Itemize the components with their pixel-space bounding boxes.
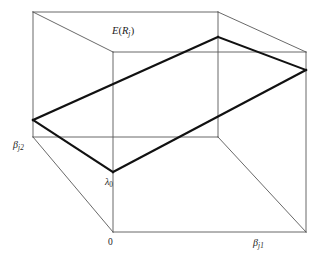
box-edge-depth-top-right — [218, 12, 306, 52]
axis-label-beta-j1: βj1 — [253, 238, 264, 250]
plane-edge-front — [113, 70, 306, 172]
beta-j1-subscript: j1 — [258, 242, 264, 250]
beta-j2-subscript: j2 — [18, 144, 24, 152]
plane-edge-left — [33, 120, 113, 172]
plane-label-close-paren: ) — [131, 25, 135, 36]
plane-edge-back — [33, 37, 218, 120]
plane-label-expected-return: E(Rj) — [112, 26, 134, 38]
intercept-label-lambda-zero: λ0 — [105, 177, 113, 189]
box-edge-depth-top-left — [33, 12, 113, 52]
origin-label: 0 — [108, 238, 113, 248]
expected-return-plane — [33, 37, 306, 172]
figure-container: E(Rj) βj2 λ0 0 βj1 — [0, 0, 321, 260]
three-dimensional-box-diagram — [0, 0, 321, 260]
axis-label-beta-j2: βj2 — [13, 140, 24, 152]
lambda-subscript: 0 — [109, 181, 113, 189]
box-edge-depth-bottom-right — [218, 137, 306, 232]
plane-edge-right — [218, 37, 306, 70]
box-edge-depth-bottom-left — [33, 137, 113, 232]
box-wireframe — [33, 12, 306, 232]
